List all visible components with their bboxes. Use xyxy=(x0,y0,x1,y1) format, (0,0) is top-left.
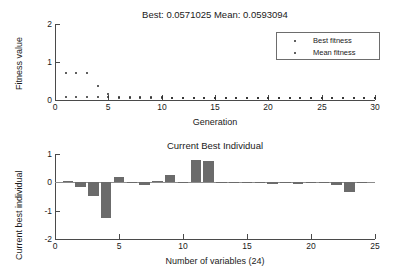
individual-bar xyxy=(357,182,367,183)
individual-bar xyxy=(114,177,124,183)
individual-bar xyxy=(191,160,201,183)
individual-bar-layer xyxy=(0,135,395,278)
individual-bar xyxy=(280,182,290,183)
best-fitness-point xyxy=(86,96,88,98)
mean-fitness-point xyxy=(65,72,67,74)
mean-fitness-point xyxy=(235,97,237,99)
matlab-ga-figure: Best: 0.0571025 Mean: 0.0593094 Fitness … xyxy=(0,0,395,278)
individual-bar xyxy=(165,175,175,183)
mean-fitness-point xyxy=(171,97,173,99)
mean-fitness-point xyxy=(182,97,184,99)
mean-fitness-point xyxy=(214,97,216,99)
mean-fitness-marker-icon xyxy=(294,52,296,54)
mean-fitness-point xyxy=(225,97,227,99)
mean-fitness-point xyxy=(321,97,323,99)
legend-label-best: Best fitness xyxy=(313,35,352,46)
individual-plot-panel: Current Best Individual Current best ind… xyxy=(0,135,395,278)
mean-fitness-point xyxy=(278,97,280,99)
mean-fitness-point xyxy=(289,97,291,99)
mean-fitness-point xyxy=(129,96,131,98)
individual-bar xyxy=(152,181,162,182)
fitness-legend[interactable]: Best fitness Mean fitness xyxy=(276,32,380,60)
mean-fitness-point xyxy=(107,93,109,95)
mean-fitness-point xyxy=(193,97,195,99)
individual-bar xyxy=(139,182,149,185)
individual-bar xyxy=(306,182,316,183)
individual-bar xyxy=(75,182,85,187)
mean-fitness-point xyxy=(299,97,301,99)
mean-fitness-point xyxy=(75,72,77,74)
individual-bar xyxy=(216,182,226,183)
individual-bar xyxy=(293,182,303,183)
individual-bar xyxy=(88,182,98,195)
individual-bar xyxy=(344,182,354,192)
mean-fitness-point xyxy=(310,97,312,99)
mean-fitness-point xyxy=(374,97,376,99)
mean-fitness-point xyxy=(97,85,99,87)
best-fitness-point xyxy=(107,96,109,98)
best-fitness-point xyxy=(75,96,77,98)
mean-fitness-point xyxy=(86,72,88,74)
legend-row-mean: Mean fitness xyxy=(277,47,381,58)
individual-bar xyxy=(242,182,252,183)
fitness-scatter-layer xyxy=(0,0,395,135)
mean-fitness-point xyxy=(246,97,248,99)
mean-fitness-point xyxy=(342,97,344,99)
best-fitness-point xyxy=(97,96,99,98)
individual-bar xyxy=(229,182,239,183)
individual-bar xyxy=(101,182,111,218)
mean-fitness-point xyxy=(257,97,259,99)
individual-bar xyxy=(63,181,73,182)
individual-bar xyxy=(331,182,341,185)
individual-bar xyxy=(127,182,137,183)
mean-fitness-point xyxy=(331,97,333,99)
mean-fitness-point xyxy=(118,96,120,98)
individual-bar xyxy=(319,182,329,183)
fitness-plot-panel: Best: 0.0571025 Mean: 0.0593094 Fitness … xyxy=(0,0,395,135)
mean-fitness-point xyxy=(353,97,355,99)
individual-bar xyxy=(267,182,277,184)
individual-bar xyxy=(178,182,188,183)
mean-fitness-point xyxy=(267,97,269,99)
legend-label-mean: Mean fitness xyxy=(313,47,356,58)
legend-row-best: Best fitness xyxy=(277,35,381,46)
individual-bar xyxy=(203,161,213,183)
mean-fitness-point xyxy=(363,97,365,99)
best-fitness-point xyxy=(65,96,67,98)
individual-bar xyxy=(255,182,265,183)
mean-fitness-point xyxy=(203,97,205,99)
best-fitness-marker-icon xyxy=(294,40,296,42)
